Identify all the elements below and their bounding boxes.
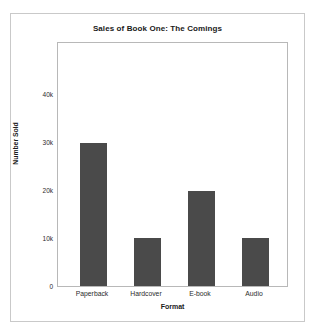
y-tick-label: 0 bbox=[27, 283, 53, 291]
x-tick-label-paperback: Paperback bbox=[61, 290, 123, 297]
x-tick-label-hardcover: Hardcover bbox=[115, 290, 177, 297]
y-axis-label: Number Sold bbox=[12, 104, 19, 184]
chart-title: Sales of Book One: The Comings bbox=[10, 24, 305, 33]
y-axis-ticks: 0 10k 20k 30k 40k bbox=[25, 42, 53, 287]
y-tick-label: 20k bbox=[27, 187, 53, 195]
x-axis-ticks: Paperback Hardcover E-book Audio bbox=[57, 290, 288, 302]
bar-ebook[interactable] bbox=[188, 191, 215, 286]
x-axis-label: Format bbox=[57, 303, 288, 310]
plot-area bbox=[57, 42, 288, 287]
x-tick-label-ebook: E-book bbox=[169, 290, 231, 297]
bar-hardcover[interactable] bbox=[134, 238, 161, 286]
chart-figure: Sales of Book One: The Comings Number So… bbox=[0, 0, 315, 335]
x-tick-label-audio: Audio bbox=[223, 290, 285, 297]
y-tick-label: 30k bbox=[27, 139, 53, 147]
bars-container bbox=[58, 43, 287, 286]
y-tick-label: 40k bbox=[27, 91, 53, 99]
bar-audio[interactable] bbox=[242, 238, 269, 286]
y-tick-label: 10k bbox=[27, 235, 53, 243]
bar-paperback[interactable] bbox=[80, 143, 107, 286]
